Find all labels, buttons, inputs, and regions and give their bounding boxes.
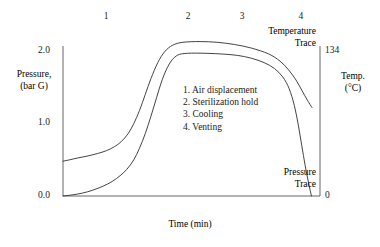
phase-annotation-item: 3. Cooling	[183, 108, 258, 120]
phase-annotation-item: 2. Sterilization hold	[183, 96, 258, 108]
left-axis-tick-1.0: 1.0	[38, 117, 50, 127]
sterilization-cycle-chart: 1234 2.0 1.0 0.0 134 0 Pressure,(bar G) …	[0, 0, 380, 247]
pressure-trace-label-line1: Pressure	[236, 167, 316, 179]
temperature-trace-label-line2: Trace	[236, 38, 316, 50]
left-axis-tick-0.0: 0.0	[38, 190, 50, 200]
pressure-trace-label: PressureTrace	[236, 167, 316, 190]
left-axis-title: Pressure,(bar G)	[6, 68, 62, 92]
phase-marker-3: 3	[235, 11, 249, 21]
left-axis-tick-2.0: 2.0	[38, 45, 50, 55]
phase-marker-4: 4	[294, 11, 308, 21]
right-axis-title: Temp.(°C)	[330, 70, 376, 94]
right-axis-tick-0: 0	[325, 190, 330, 200]
right-axis-title-line1: Temp.	[330, 70, 376, 82]
right-axis-tick-134: 134	[325, 45, 339, 55]
left-axis-title-line2: (bar G)	[6, 80, 62, 92]
phase-marker-2: 2	[181, 11, 195, 21]
left-axis-title-line1: Pressure,	[6, 68, 62, 80]
phase-marker-1: 1	[99, 11, 113, 21]
x-axis-title: Time (min)	[130, 219, 250, 229]
temperature-trace-label-line1: Temperature	[236, 26, 316, 38]
phase-legend-annotations: 1. Air displacement2. Sterilization hold…	[183, 84, 258, 133]
right-axis-title-line2: (°C)	[330, 82, 376, 94]
phase-annotation-item: 1. Air displacement	[183, 84, 258, 96]
temperature-trace-label: TemperatureTrace	[236, 26, 316, 49]
pressure-trace-label-line2: Trace	[236, 179, 316, 191]
phase-annotation-item: 4. Venting	[183, 121, 258, 133]
